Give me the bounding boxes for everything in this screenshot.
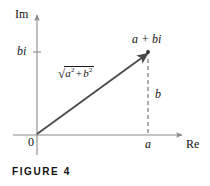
- radical-group: √a2+b2: [58, 66, 94, 79]
- modulus-expression: √a2+b2: [58, 66, 94, 79]
- imaginary-tick-label: bi: [17, 45, 26, 57]
- figure-caption: FIGURE 4: [12, 166, 71, 177]
- point-label: a + bi: [132, 33, 161, 45]
- figure-container: Im Re 0 bi a b a + bi √a2+b2 FIGURE 4: [0, 0, 210, 186]
- term-two-exponent: 2: [89, 66, 93, 74]
- origin-label: 0: [28, 136, 34, 148]
- real-axis-label: Re: [186, 138, 199, 150]
- real-tick-label: a: [145, 138, 151, 150]
- radicand: a2+b2: [64, 66, 93, 79]
- imaginary-axis-label: Im: [15, 8, 28, 20]
- modulus-operator: +: [75, 67, 83, 79]
- vertical-leg-label: b: [155, 88, 161, 100]
- point-marker: [146, 50, 150, 54]
- complex-plane-diagram: [0, 0, 210, 186]
